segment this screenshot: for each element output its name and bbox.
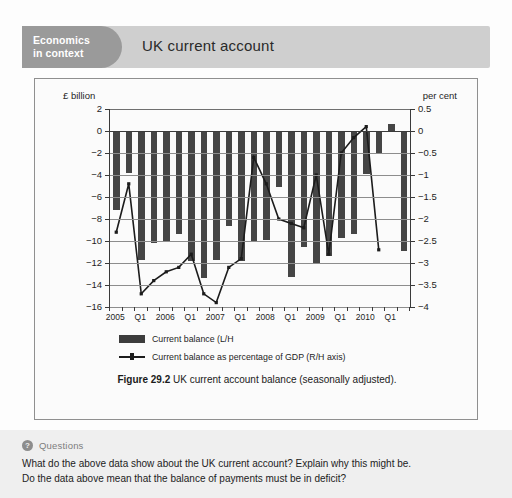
line-marker xyxy=(215,301,218,304)
left-axis-tick xyxy=(105,153,110,154)
line-marker xyxy=(240,257,243,260)
right-axis-tick-label: −3 xyxy=(418,257,429,268)
line-marker xyxy=(265,182,268,185)
questions-title: Questions xyxy=(39,440,84,451)
left-axis-tick xyxy=(105,241,110,242)
economics-in-context-panel: Economics in context UK current account … xyxy=(0,0,512,498)
left-axis-tick-label: −12 xyxy=(86,257,102,268)
questions-section: ? Questions What do the above data show … xyxy=(0,430,512,498)
right-axis-tick-label: −1 xyxy=(418,169,429,180)
left-axis-tick-label: 2 xyxy=(97,103,102,114)
gridline xyxy=(110,263,410,264)
x-axis-tick xyxy=(409,307,410,311)
badge-line-1: Economics xyxy=(33,34,90,46)
x-axis-tick xyxy=(272,307,273,311)
gridline xyxy=(110,285,410,286)
line-marker xyxy=(190,253,193,256)
x-axis-tick-label: 2010 xyxy=(356,312,375,322)
left-axis-tick xyxy=(105,175,110,176)
x-axis-tick-label: Q1 xyxy=(385,312,396,322)
x-axis-tick xyxy=(134,307,135,311)
gridline xyxy=(110,219,410,220)
x-axis-tick xyxy=(234,307,235,311)
x-axis-tick-label: Q1 xyxy=(335,312,346,322)
gridline xyxy=(110,241,410,242)
economics-in-context-badge: Economics in context xyxy=(22,26,122,68)
legend-item-percentage-of-gdp: Current balance as percentage of GDP (R/… xyxy=(119,349,469,364)
line-marker xyxy=(377,248,380,251)
chart: £ billion per cent 20−2−4−6−8−10−12−14−1… xyxy=(35,79,479,329)
line-marker xyxy=(127,182,130,185)
right-axis-tick xyxy=(410,175,415,176)
x-axis-tick-label: Q1 xyxy=(235,312,246,322)
bar-swatch-icon xyxy=(119,335,145,343)
right-axis-tick-label: −1.5 xyxy=(418,191,437,202)
x-axis-tick xyxy=(159,307,160,311)
gridline xyxy=(110,153,410,154)
plot-area: 20−2−4−6−8−10−12−14−160.50−0.5−1−1.5−2−2… xyxy=(109,109,411,307)
left-axis-tick xyxy=(105,131,110,132)
x-axis-tick xyxy=(247,307,248,311)
left-axis-tick xyxy=(105,219,110,220)
right-axis-tick xyxy=(410,131,415,132)
right-axis-tick-label: −2.5 xyxy=(418,235,437,246)
x-axis-tick xyxy=(372,307,373,311)
x-axis-tick xyxy=(222,307,223,311)
x-axis-tick xyxy=(259,307,260,311)
figure-caption: Figure 29.2 UK current account balance (… xyxy=(35,374,479,385)
line-marker-icon xyxy=(119,352,145,362)
right-axis-tick xyxy=(410,153,415,154)
questions-header: ? Questions xyxy=(22,440,490,451)
x-axis-tick xyxy=(147,307,148,311)
left-axis-tick-label: −2 xyxy=(91,147,102,158)
line-marker xyxy=(252,156,255,159)
gridline xyxy=(110,175,410,176)
question-line: What do the above data show about the UK… xyxy=(22,456,490,471)
x-axis-tick xyxy=(384,307,385,311)
left-axis-tick-label: −14 xyxy=(86,279,102,290)
right-axis-tick xyxy=(410,109,415,110)
right-axis-tick xyxy=(410,307,415,308)
left-axis-tick xyxy=(105,109,110,110)
left-axis-tick-label: 0 xyxy=(97,125,102,136)
x-axis-tick-label: 2009 xyxy=(306,312,325,322)
left-axis-tick-label: −4 xyxy=(91,169,102,180)
x-axis-tick xyxy=(209,307,210,311)
line-marker xyxy=(352,136,355,139)
right-axis-tick xyxy=(410,219,415,220)
x-axis-tick-label: Q1 xyxy=(285,312,296,322)
x-axis-labels: 2005Q12006Q12007Q12008Q12009Q12010Q1 xyxy=(35,312,479,328)
right-axis-tick-label: 0.5 xyxy=(418,103,431,114)
page-title: UK current account xyxy=(142,37,274,54)
legend-item-current-balance: Current balance (L/H xyxy=(119,331,469,346)
x-axis-tick xyxy=(397,307,398,311)
right-axis-tick xyxy=(410,263,415,264)
right-axis-tick-label: 0 xyxy=(418,125,423,136)
left-axis-tick-label: −8 xyxy=(91,213,102,224)
question-line: Do the data above mean that the balance … xyxy=(22,471,490,486)
right-axis-tick xyxy=(410,285,415,286)
x-axis-tick xyxy=(347,307,348,311)
figure-number: Figure 29.2 xyxy=(117,374,170,385)
line-marker xyxy=(165,270,168,273)
right-axis-unit-label: per cent xyxy=(423,90,457,101)
figure-card: £ billion per cent 20−2−4−6−8−10−12−14−1… xyxy=(34,78,478,420)
x-axis-tick xyxy=(109,307,110,311)
line-marker xyxy=(177,266,180,269)
x-axis-tick-label: 2005 xyxy=(106,312,125,322)
line-marker xyxy=(152,279,155,282)
x-axis-tick xyxy=(184,307,185,311)
right-axis-tick-label: −0.5 xyxy=(418,147,437,158)
left-axis-tick xyxy=(105,285,110,286)
left-axis-tick xyxy=(105,197,110,198)
left-axis-tick xyxy=(105,263,110,264)
gridline xyxy=(110,131,410,132)
left-axis-unit-label: £ billion xyxy=(63,90,95,101)
chart-legend: Current balance (L/H Current balance as … xyxy=(119,331,469,367)
left-axis-tick-label: −6 xyxy=(91,191,102,202)
x-axis-tick xyxy=(334,307,335,311)
line-marker xyxy=(365,125,368,128)
x-axis-tick xyxy=(322,307,323,311)
x-axis-tick xyxy=(309,307,310,311)
right-axis-tick-label: −2 xyxy=(418,213,429,224)
